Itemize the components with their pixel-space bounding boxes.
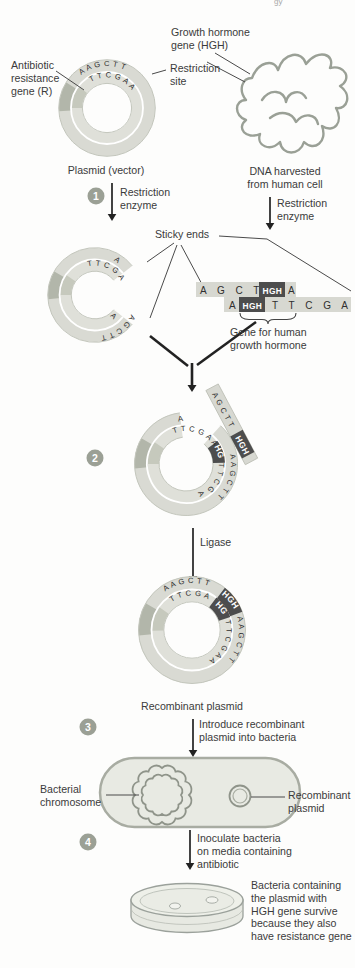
sticky-ends-label: Sticky ends	[155, 228, 209, 241]
antibiotic-gene-segment-rec	[145, 607, 151, 635]
antibiotic-resistance-label: Antibiotic resistance gene (R)	[11, 59, 59, 97]
svg-text:1: 1	[93, 190, 99, 202]
recombinant-plasmid-caption: Recombinant plasmid	[130, 700, 254, 713]
svg-text:4: 4	[85, 836, 91, 848]
arrow-restriction-right	[266, 197, 275, 230]
bacterium	[100, 758, 300, 827]
figure-canvas: A A G C T T T T C G A A 1 A T T C G A A …	[0, 0, 355, 968]
dna-fragment: A G C T T HGH A A HGH T T C G A	[196, 282, 352, 324]
svg-text:3: 3	[85, 721, 91, 733]
plasmid-vector: A A G C T T T T C G A A	[59, 59, 156, 156]
leader-restriction-site	[152, 70, 166, 74]
colony-1	[170, 903, 181, 909]
arrow-ligase	[189, 528, 198, 583]
hgh-brace	[240, 313, 296, 324]
inoculate-label: Inoculate bacteria on media containing a…	[197, 832, 292, 870]
diagram-art: A A G C T T T T C G A A 1 A T T C G A A …	[0, 0, 355, 968]
restriction-site-label: Restriction site	[170, 62, 220, 88]
restriction-enzyme-label-right: Restriction enzyme	[277, 197, 327, 223]
frag-seq-bottom: T T C G A	[272, 300, 352, 311]
colony-2	[206, 897, 218, 903]
recombinant-plasmid-label: Recombinant plasmid	[288, 789, 350, 815]
frag-seq-bottom-start: A	[229, 300, 240, 311]
step-2-badge: 2	[87, 450, 104, 467]
arrow-inoculate	[186, 830, 195, 870]
cut-plasmid: A T T C G A A G C T T A	[48, 248, 138, 343]
arrow-restriction-left	[108, 183, 117, 221]
frag-seq-top-end: A	[288, 285, 299, 296]
petri-dish	[131, 884, 243, 933]
leader-hgh-gene-1	[215, 53, 250, 74]
hgh-label-bottom: HGH	[243, 301, 263, 311]
svg-text:2: 2	[92, 452, 98, 464]
s2-seq-top-outer: A	[177, 414, 184, 424]
growth-hormone-gene-label: Growth hormone gene (HGH)	[171, 26, 250, 52]
recombinant-plasmid: A A G C T T HGH A A G C T T T T C G A A …	[0, 0, 246, 684]
dna-squiggle	[237, 54, 347, 152]
ligase-label: Ligase	[200, 536, 231, 549]
step-1-badge: 1	[88, 188, 105, 205]
plasmid-vector-caption: Plasmid (vector)	[56, 164, 156, 177]
page-header-fragment: gy	[274, 0, 282, 6]
bacterial-chromosome-label: Bacterial chromosome	[40, 783, 101, 809]
restriction-enzyme-label-left: Restriction enzyme	[120, 186, 170, 212]
hgh-label-top: HGH	[263, 286, 283, 296]
introduce-label: Introduce recombinant plasmid into bacte…	[199, 718, 304, 744]
step-4-badge: 4	[80, 834, 97, 851]
gene-for-hgh-label: Gene for human growth hormone	[230, 326, 307, 352]
survive-label: Bacteria containing the plasmid with HGH…	[251, 879, 352, 943]
dna-harvested-caption: DNA harvested from human cell	[235, 165, 335, 191]
arrow-introduce	[189, 719, 198, 757]
step-3-badge: 3	[80, 719, 97, 736]
